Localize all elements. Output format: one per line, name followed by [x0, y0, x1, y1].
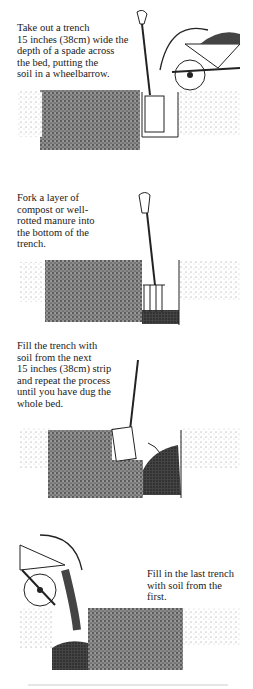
arrow-icon	[148, 443, 160, 453]
step-4-caption: Fill in the last trench with soil from t…	[147, 568, 234, 603]
step-2-caption: Fork a layer of compost or well- rotted …	[17, 192, 95, 250]
faded-caption-line	[28, 684, 228, 686]
fork-icon	[139, 193, 165, 313]
spade-icon	[137, 10, 164, 132]
spade-icon	[112, 360, 138, 461]
wheelbarrow-icon	[20, 545, 65, 606]
wheelbarrow-icon	[172, 32, 240, 90]
step-4-illustration	[20, 535, 240, 670]
step-1-caption: Take out a trench 15 inches (38cm) wide …	[17, 22, 128, 80]
step-3-caption: Fill the trench with soil from the next …	[17, 340, 111, 409]
